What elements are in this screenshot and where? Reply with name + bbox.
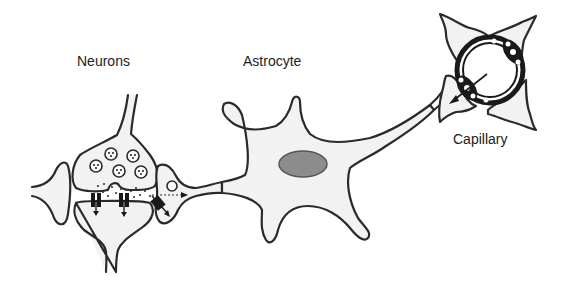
astrocyte-nucleus: [279, 151, 327, 177]
astrocyte-body: [222, 97, 434, 243]
neuron-astrocyte-capillary-diagram: Neurons Astrocyte Capillary: [0, 0, 570, 307]
postsynaptic-neuron: [74, 201, 152, 272]
left-neuron: [32, 163, 70, 225]
diagram-graphic: [0, 0, 570, 307]
